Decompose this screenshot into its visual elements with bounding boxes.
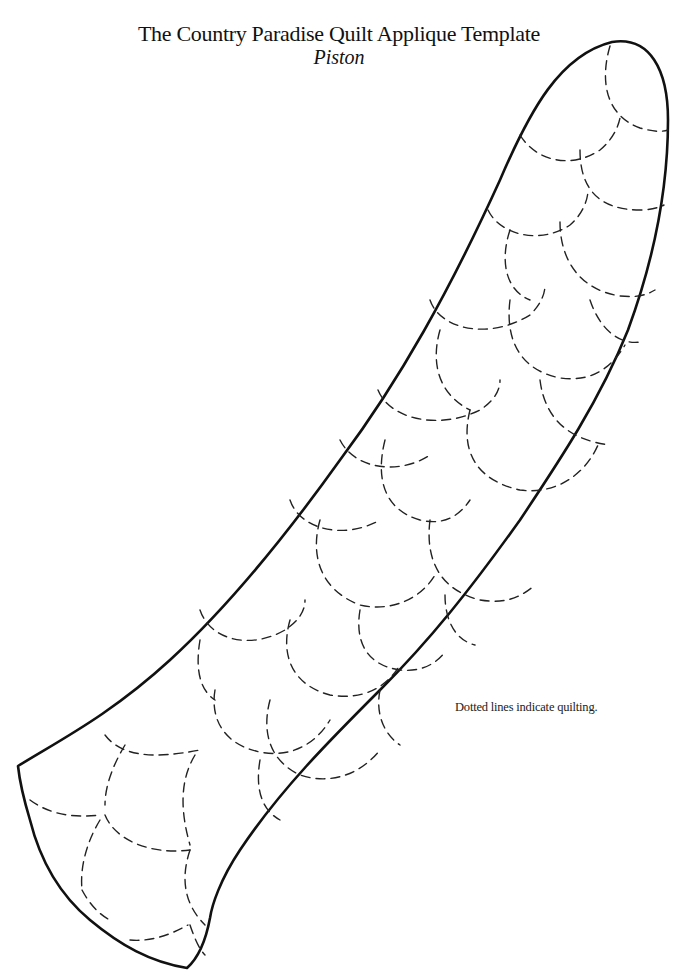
piston-template-drawing (0, 0, 693, 979)
quilting-lines (30, 46, 668, 955)
quilting-note: Dotted lines indicate quilting. (455, 700, 597, 715)
template-outline (18, 41, 668, 968)
